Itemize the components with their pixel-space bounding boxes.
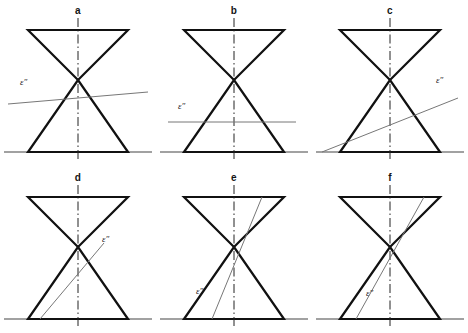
panel-d-drawing (0, 167, 156, 333)
conic-sections-figure: a ε″ b ε″ c ε″ (0, 0, 468, 333)
panel-d: d ε″ (0, 167, 156, 333)
panel-c-drawing (312, 0, 468, 166)
trace-label-b: ε″ (178, 102, 185, 111)
trace-label-f: ε″ (366, 289, 373, 298)
panel-a: a ε″ (0, 0, 156, 166)
panel-b-drawing (156, 0, 312, 166)
cutting-plane-trace (212, 197, 262, 319)
trace-label-e: ε″ (196, 287, 203, 296)
panel-c: c ε″ (312, 0, 468, 166)
panel-b: b ε″ (156, 0, 312, 166)
panel-f: f ε″ (312, 167, 468, 333)
panel-letter-f: f (312, 172, 468, 183)
panel-e-drawing (156, 167, 312, 333)
panel-e: e ε″ (156, 167, 312, 333)
panel-letter-c: c (312, 5, 468, 16)
panel-letter-e: e (156, 172, 312, 183)
trace-label-a: ε″ (20, 78, 27, 87)
trace-label-d: ε″ (102, 235, 109, 244)
panel-letter-a: a (0, 5, 156, 16)
trace-label-c: ε″ (436, 76, 443, 85)
panel-letter-b: b (156, 5, 312, 16)
panel-letter-d: d (0, 172, 156, 183)
panel-f-drawing (312, 167, 468, 333)
